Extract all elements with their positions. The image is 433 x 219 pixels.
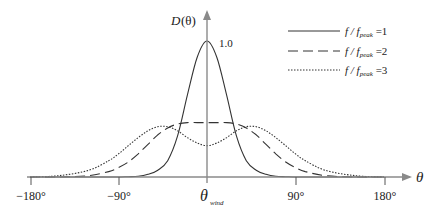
tick-label-180: 180° (374, 189, 397, 203)
y-axis-label-main: D (170, 13, 181, 28)
tick-label-neg90: −90° (107, 189, 131, 203)
legend-label-1: f / fpeak =1 (345, 25, 387, 39)
directional-spreading-chart: −180° −90° 90° 180° θ wind θ D (θ) 1.0 f… (0, 0, 433, 219)
y-axis-label-arg: (θ) (181, 13, 196, 28)
tick-label-90: 90° (288, 189, 305, 203)
peak-label: 1.0 (219, 37, 233, 49)
center-label-theta: θ (200, 187, 208, 204)
tick-label-neg180: −180° (16, 189, 46, 203)
legend-label-2: f / fpeak =2 (345, 45, 387, 59)
center-label-sub: wind (210, 199, 224, 207)
legend: f / fpeak =1 f / fpeak =2 f / fpeak =3 (288, 25, 388, 78)
legend-label-3: f / fpeak =3 (345, 64, 388, 78)
x-ticks (31, 177, 385, 185)
x-axis-label: θ (416, 169, 424, 185)
